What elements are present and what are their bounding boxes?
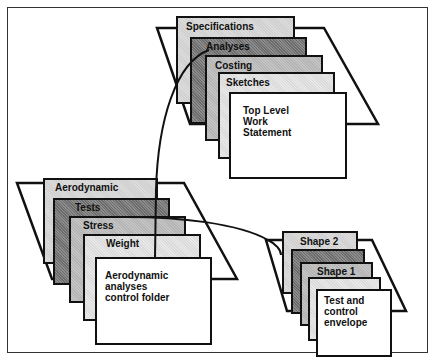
connectors-over — [0, 0, 432, 358]
diagram: Specifications Analyses Costing Sketches… — [0, 0, 432, 358]
connector-left-to-right — [116, 217, 281, 255]
